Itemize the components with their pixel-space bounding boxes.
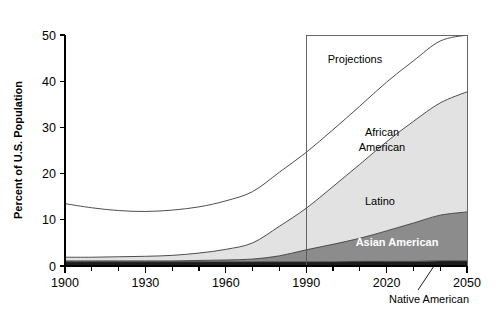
stacked-area-bands [65, 35, 467, 266]
x-tick-label-2020: 2020 [373, 276, 401, 290]
x-tick-label-1960: 1960 [212, 276, 240, 290]
x-tick-label-1990: 1990 [292, 276, 320, 290]
x-tick-label-1930: 1930 [131, 276, 159, 290]
area-chart: 01020304050 190019301960199020202050 Per… [0, 0, 504, 324]
projections-label: Projections [328, 53, 383, 65]
y-axis-tick-labels: 01020304050 [42, 29, 56, 274]
plot-top-mask [0, 0, 504, 35]
y-tick-label-30: 30 [42, 121, 56, 135]
native-american-callout-line [418, 266, 434, 290]
african-american-label-line1: African [365, 126, 399, 138]
y-tick-label-0: 0 [49, 260, 56, 274]
y-tick-label-50: 50 [42, 29, 56, 43]
african-american-label-line2: American [359, 141, 405, 153]
y-tick-label-20: 20 [42, 167, 56, 181]
chart-figure: Share of Minorities in the U.S. Populati… [0, 0, 504, 324]
x-tick-label-1900: 1900 [51, 276, 79, 290]
y-axis-title: Percent of U.S. Population [12, 81, 24, 219]
x-tick-label-2050: 2050 [453, 276, 481, 290]
x-axis-tick-labels: 190019301960199020202050 [51, 276, 481, 290]
asian-american-label: Asian American [356, 236, 439, 248]
y-tick-label-40: 40 [42, 75, 56, 89]
native-american-label: Native American [389, 293, 469, 305]
latino-label: Latino [365, 195, 395, 207]
y-tick-label-10: 10 [42, 213, 56, 227]
